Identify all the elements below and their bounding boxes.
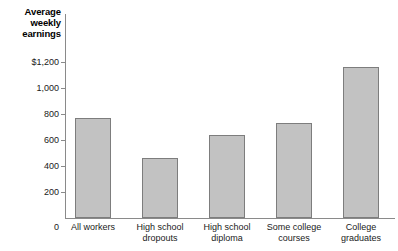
bar-college-graduates[interactable]	[343, 67, 379, 218]
bar-all-workers[interactable]	[75, 118, 111, 218]
x-axis-label-college-graduates-line-2: graduates	[318, 233, 398, 244]
bars-layer	[0, 0, 398, 251]
bar-some-college-courses[interactable]	[276, 123, 312, 218]
x-axis-label-college-graduates: College graduates	[318, 222, 398, 243]
x-axis-label-college-graduates-line-1: College	[318, 222, 398, 233]
bar-high-school-diploma[interactable]	[209, 135, 245, 218]
bar-high-school-dropouts[interactable]	[142, 158, 178, 218]
bar-chart: Average weekly earnings $1,200 1,000 800…	[0, 0, 398, 251]
